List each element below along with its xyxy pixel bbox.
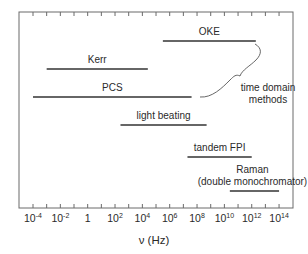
time-domain-annotation: time domainmethods bbox=[241, 82, 295, 105]
range-label: OKE bbox=[199, 26, 220, 37]
annotation-text: methods bbox=[249, 94, 287, 105]
x-tick-label: 1014 bbox=[269, 212, 289, 224]
x-axis-title: ν (Hz) bbox=[139, 234, 170, 246]
x-tick-labels: 10-410-21102104106108101010121014 bbox=[24, 212, 289, 224]
range-oke: OKE bbox=[163, 26, 256, 41]
range-label: (double monochromator) bbox=[198, 176, 308, 187]
x-tick-label: 10-2 bbox=[51, 212, 69, 224]
x-tick-label: 108 bbox=[189, 212, 205, 224]
range-raman-double-monochromator-: Raman(double monochromator) bbox=[198, 164, 308, 191]
range-light-beating: light beating bbox=[120, 110, 206, 125]
x-tick-label: 104 bbox=[135, 212, 151, 224]
annotation-text: time domain bbox=[241, 82, 295, 93]
x-tick-label: 1012 bbox=[242, 212, 262, 224]
range-label: PCS bbox=[102, 82, 123, 93]
range-pcs: PCS bbox=[33, 82, 192, 97]
frequency-range-chart: 10-410-21102104106108101010121014 OKEKer… bbox=[0, 0, 308, 254]
range-label: tandem FPI bbox=[194, 142, 246, 153]
x-tick-label: 106 bbox=[162, 212, 178, 224]
range-label: Raman bbox=[236, 164, 268, 175]
x-tick-label: 102 bbox=[107, 212, 123, 224]
x-tick-label: 10-4 bbox=[24, 212, 42, 224]
method-ranges: OKEKerrPCSlight beatingtandem FPIRaman(d… bbox=[33, 26, 307, 191]
x-tick-label: 1 bbox=[85, 212, 91, 224]
range-label: Kerr bbox=[88, 54, 108, 65]
range-tandem-fpi: tandem FPI bbox=[187, 142, 251, 157]
range-kerr: Kerr bbox=[47, 54, 148, 69]
range-label: light beating bbox=[137, 110, 191, 121]
x-tick-label: 1010 bbox=[215, 212, 235, 224]
